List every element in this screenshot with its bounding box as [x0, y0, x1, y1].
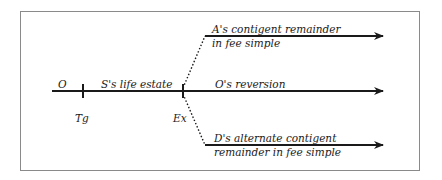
label-branch-d-line1: D's alternate contigent: [214, 132, 336, 144]
label-branch-a-line1: A's contigent remainder: [212, 23, 341, 35]
label-tick-tg: Tg: [75, 112, 89, 124]
label-branch-d-line2: remainder in fee simple: [214, 146, 341, 158]
label-life-estate: S's life estate: [101, 78, 172, 90]
label-grantor-o: O: [58, 78, 67, 90]
connector-upper-dotted: [183, 36, 205, 88]
label-branch-reversion: O's reversion: [215, 78, 285, 90]
label-branch-a-line2: in fee simple: [212, 37, 280, 49]
label-tick-ex: Ex: [173, 112, 187, 124]
